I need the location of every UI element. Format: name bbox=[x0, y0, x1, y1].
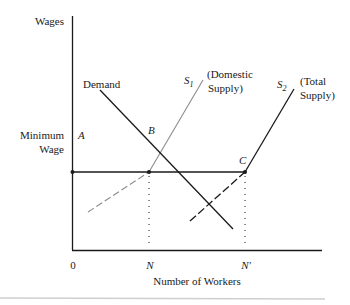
s2-desc-1: (Total bbox=[300, 75, 326, 88]
s1-desc-1: (Domestic bbox=[207, 68, 253, 81]
origin-label: 0 bbox=[70, 259, 76, 271]
s1-dashed-segment bbox=[88, 172, 149, 212]
point-a-label: A bbox=[77, 129, 85, 141]
point-c-label: C bbox=[239, 154, 247, 166]
demand-label: Demand bbox=[83, 78, 121, 90]
point-b-dot bbox=[147, 170, 151, 174]
min-wage-label-2: Wage bbox=[39, 143, 64, 155]
s1-label: S1 bbox=[184, 74, 194, 89]
s1-solid-segment bbox=[149, 80, 203, 172]
demand-curve bbox=[100, 90, 233, 229]
point-b-label: B bbox=[148, 124, 155, 136]
s2-desc-2: Supply) bbox=[300, 89, 335, 102]
s2-label: S2 bbox=[277, 78, 287, 93]
y-axis-label: Wages bbox=[35, 15, 64, 27]
min-wage-diagram: Wages Demand Minimum Wage A B C S1 (Dome… bbox=[0, 0, 350, 305]
x-axis-label: Number of Workers bbox=[153, 275, 241, 287]
s2-solid-segment bbox=[245, 89, 294, 172]
point-c-dot bbox=[243, 170, 247, 174]
s1-desc-2: Supply) bbox=[208, 82, 243, 95]
x-tick-n-prime: N′ bbox=[240, 259, 251, 271]
bottom-separator bbox=[0, 298, 325, 299]
point-a-dot bbox=[71, 170, 75, 174]
x-tick-n: N bbox=[145, 259, 154, 271]
min-wage-label-1: Minimum bbox=[20, 129, 64, 141]
